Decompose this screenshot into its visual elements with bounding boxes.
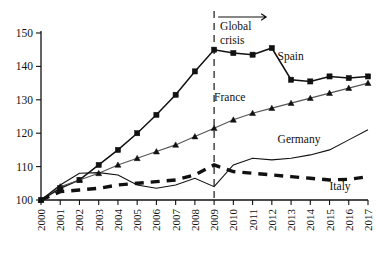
- marker-square: [231, 50, 236, 55]
- series-france: [38, 80, 371, 202]
- x-tick-label: 2016: [343, 209, 355, 232]
- x-tick-label: 2008: [189, 209, 201, 232]
- series-label-spain: Spain: [278, 50, 304, 63]
- marker-square: [365, 74, 370, 79]
- x-tick-label: 2002: [73, 209, 85, 231]
- marker-square: [154, 112, 159, 117]
- y-tick-label: 100: [16, 194, 34, 206]
- marker-triangle: [365, 80, 371, 85]
- marker-square: [115, 147, 120, 152]
- x-tick-label: 2011: [247, 209, 259, 231]
- y-tick-group: [36, 33, 41, 200]
- x-tick-label: 2005: [131, 209, 143, 232]
- series-spain: [38, 45, 370, 202]
- crisis-label-line2: crisis: [220, 34, 245, 46]
- x-tick-label: 2007: [170, 209, 182, 232]
- marker-triangle: [192, 134, 198, 139]
- x-tick-label: 2004: [112, 209, 124, 232]
- marker-square: [173, 92, 178, 97]
- x-tick-group: [41, 200, 368, 205]
- marker-square: [308, 79, 313, 84]
- series-label-germany: Germany: [278, 133, 321, 146]
- x-tick-label: 2013: [285, 209, 297, 232]
- global-crisis-annotation: Global crisis: [214, 11, 266, 199]
- series-label-italy: Italy: [330, 180, 351, 193]
- x-tick-label: 2015: [324, 209, 336, 232]
- y-tick-label: 140: [16, 60, 34, 72]
- x-tick-label: 2010: [227, 209, 239, 232]
- y-tick-label: 120: [16, 127, 34, 139]
- marker-square: [288, 77, 293, 82]
- series-layer: [38, 45, 371, 202]
- x-tick-label: 2009: [208, 209, 220, 232]
- x-tick-label: 2003: [93, 209, 105, 232]
- marker-square: [250, 52, 255, 57]
- x-tick-label: 2001: [54, 209, 66, 231]
- x-tick-label: 2006: [150, 209, 162, 232]
- marker-square: [212, 47, 217, 52]
- x-tick-label: 2000: [35, 209, 47, 232]
- y-tick-label-group: 100110120130140150: [16, 27, 34, 206]
- marker-square: [135, 131, 140, 136]
- marker-triangle: [173, 142, 179, 147]
- marker-square: [192, 69, 197, 74]
- line-chart: 100110120130140150 200020012002200320042…: [0, 0, 376, 253]
- marker-square: [346, 75, 351, 80]
- series-label-france: France: [214, 91, 245, 103]
- x-tick-label: 2014: [304, 209, 316, 232]
- x-tick-label: 2017: [362, 209, 374, 232]
- y-tick-label: 150: [16, 27, 34, 39]
- y-tick-label: 110: [16, 161, 33, 173]
- chart-canvas: 100110120130140150 200020012002200320042…: [0, 0, 376, 253]
- x-tick-label: 2012: [266, 209, 278, 231]
- series-line-spain: [41, 48, 368, 200]
- marker-square: [269, 45, 274, 50]
- crisis-label-line1: Global: [220, 20, 251, 32]
- y-tick-label: 130: [16, 94, 34, 106]
- marker-triangle: [211, 125, 217, 130]
- x-tick-label-group: 2000200120022003200420052006200720082009…: [35, 209, 374, 232]
- x-axis: 2000200120022003200420052006200720082009…: [35, 200, 374, 231]
- marker-square: [96, 162, 101, 167]
- y-axis: 100110120130140150: [16, 27, 41, 206]
- marker-square: [327, 74, 332, 79]
